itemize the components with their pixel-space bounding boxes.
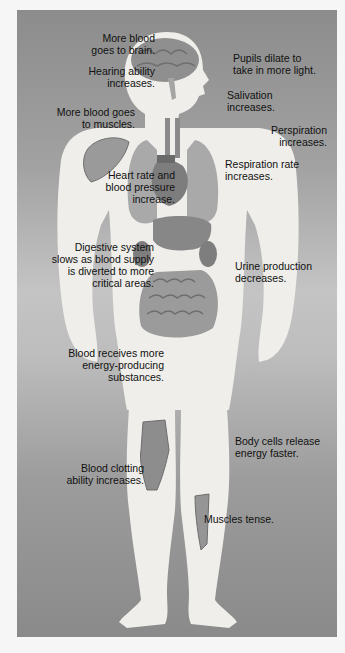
- label-hearing: Hearing ability increases.: [57, 65, 155, 89]
- label-digestive: Digestive system slows as blood supply i…: [25, 241, 154, 289]
- label-muscles-blood: More blood goes to muscles.: [27, 106, 135, 130]
- diagram-panel: More blood goes to brain. Hearing abilit…: [17, 10, 337, 637]
- label-clotting: Blood clotting ability increases.: [37, 462, 144, 486]
- trachea-organ: [165, 118, 170, 158]
- label-heart: Heart rate and blood pressure increase.: [77, 169, 175, 205]
- label-pupils: Pupils dilate to take in more light.: [233, 52, 337, 76]
- label-salivation: Salivation increases.: [227, 89, 327, 113]
- kidney-right: [199, 241, 217, 267]
- label-energy-blood: Blood receives more energy-producing sub…: [37, 347, 164, 383]
- label-muscles-tense: Muscles tense.: [204, 513, 304, 525]
- label-urine: Urine production decreases.: [235, 260, 335, 284]
- label-body-cells: Body cells release energy faster.: [235, 435, 335, 459]
- label-perspiration: Perspiration increases.: [235, 124, 327, 148]
- label-respiration: Respiration rate increases.: [225, 158, 335, 182]
- label-brain: More blood goes to brain.: [75, 32, 155, 56]
